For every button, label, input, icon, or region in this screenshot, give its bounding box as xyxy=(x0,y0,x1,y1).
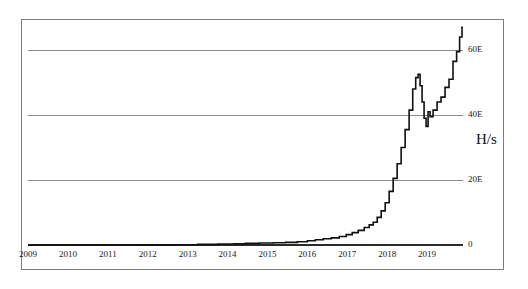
x-tick-label-2015: 2015 xyxy=(253,250,281,259)
x-tick-label-2017: 2017 xyxy=(333,250,361,259)
y-tick-label-0: 0 xyxy=(468,240,473,249)
x-tick-label-2018: 2018 xyxy=(373,250,401,259)
x-tick-label-2009: 2009 xyxy=(14,250,42,259)
hashrate-line xyxy=(28,27,463,245)
chart-figure: 020E40E60E 20092010201120122013201420152… xyxy=(0,0,528,289)
x-tick-label-2019: 2019 xyxy=(413,250,441,259)
x-tick-label-2011: 2011 xyxy=(94,250,122,259)
series-layer xyxy=(28,24,463,245)
y-tick-label-20E: 20E xyxy=(468,175,483,184)
x-tick-label-2013: 2013 xyxy=(174,250,202,259)
y-axis-unit-label: H/s xyxy=(476,132,497,147)
x-tick-label-2012: 2012 xyxy=(134,250,162,259)
x-tick-label-2016: 2016 xyxy=(293,250,321,259)
x-tick-label-2010: 2010 xyxy=(54,250,82,259)
y-tick-label-40E: 40E xyxy=(468,110,483,119)
y-tick-label-60E: 60E xyxy=(468,45,483,54)
x-tick-label-2014: 2014 xyxy=(214,250,242,259)
